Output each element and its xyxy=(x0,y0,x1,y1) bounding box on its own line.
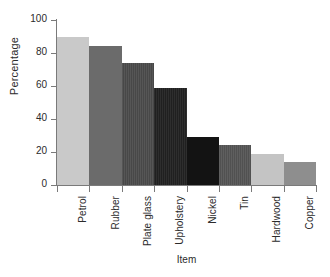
x-tick-mark xyxy=(187,186,188,192)
x-tick-mark xyxy=(284,186,285,192)
category-label-text: Tin xyxy=(239,196,250,210)
y-tick-label: 40 xyxy=(36,112,47,123)
x-tick-mark xyxy=(57,186,58,192)
x-tick-mark xyxy=(251,186,252,192)
bar xyxy=(187,137,219,185)
category-label: Rubber xyxy=(110,196,121,229)
y-tick-label: 60 xyxy=(36,79,47,90)
bar xyxy=(251,154,283,185)
bar xyxy=(89,46,121,185)
category-label: Nickel xyxy=(207,196,218,224)
bar xyxy=(284,162,316,185)
bar xyxy=(122,63,154,185)
category-label: Tin xyxy=(239,196,250,210)
plot-area xyxy=(57,20,316,185)
x-tick-mark xyxy=(316,186,317,192)
bar-chart-figure: Percentage Item 020406080100 PetrolRubbe… xyxy=(0,0,330,277)
category-label: Copper xyxy=(304,196,315,229)
x-tick-mark xyxy=(89,186,90,192)
bar xyxy=(219,145,251,185)
category-label-text: Hardwood xyxy=(271,196,282,242)
category-label: Petrol xyxy=(77,196,88,223)
category-label-text: Upholstery xyxy=(174,196,185,245)
y-tick-label: 20 xyxy=(36,145,47,156)
x-tick-mark xyxy=(122,186,123,192)
category-label-text: Nickel xyxy=(207,196,218,224)
y-axis-title: Percentage xyxy=(8,16,20,116)
category-label-text: Rubber xyxy=(110,196,121,229)
category-label: Hardwood xyxy=(271,196,282,242)
bar xyxy=(154,88,186,185)
category-label: Upholstery xyxy=(174,196,185,245)
x-tick-mark xyxy=(154,186,155,192)
category-label-text: Plate glass xyxy=(142,196,153,246)
x-tick-mark xyxy=(219,186,220,192)
category-label: Plate glass xyxy=(142,196,153,246)
category-label-text: Petrol xyxy=(77,196,88,223)
y-tick-label: 80 xyxy=(36,46,47,57)
bar xyxy=(57,37,89,186)
y-tick-label: 0 xyxy=(41,178,47,189)
y-tick-label: 100 xyxy=(30,13,47,24)
category-label-text: Copper xyxy=(304,196,315,229)
x-axis-title: Item xyxy=(57,254,316,265)
